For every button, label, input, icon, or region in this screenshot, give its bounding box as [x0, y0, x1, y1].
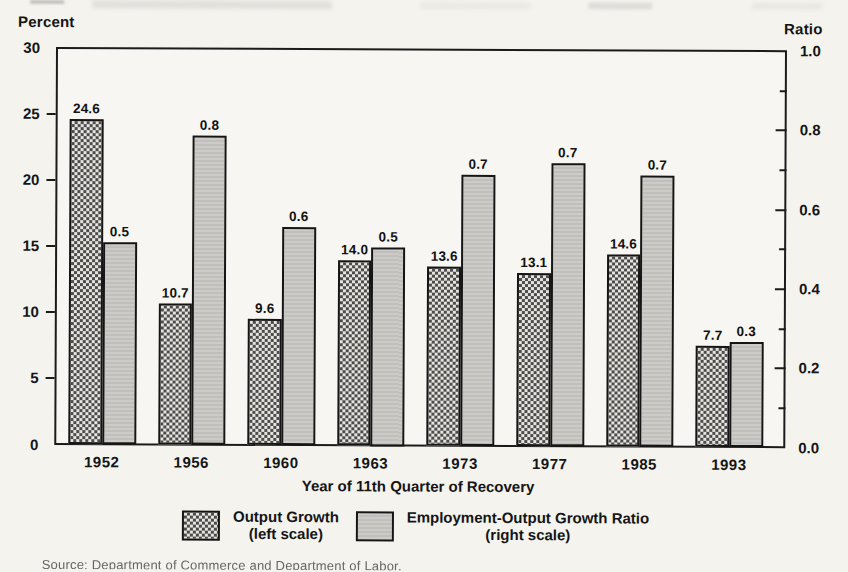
- left-axis-tick-label: 30: [8, 40, 40, 56]
- left-axis-tick-label: 5: [7, 370, 39, 386]
- output-growth-bar: [516, 273, 550, 446]
- right-axis-tick-label: 0.2: [799, 360, 839, 376]
- scan-artifact: [420, 3, 530, 9]
- employment-ratio-value-label: 0.7: [544, 145, 592, 160]
- employment-ratio-bar: [550, 163, 585, 447]
- x-category-label: 1993: [694, 456, 764, 473]
- left-axis-tick: [46, 245, 55, 247]
- left-axis-tick-label: 10: [7, 304, 39, 320]
- output-growth-bar: [606, 254, 640, 447]
- output-growth-bar: [68, 119, 103, 444]
- right-axis-tick-label: 1.0: [800, 43, 840, 59]
- left-axis-title: Percent: [18, 13, 75, 30]
- employment-ratio-bar: [729, 342, 763, 447]
- scan-artifact: [92, 0, 332, 9]
- employment-ratio-value-label: 0.7: [454, 157, 502, 172]
- legend: Output Growth (left scale) Employment-Ou…: [0, 0, 848, 3]
- right-axis-title: Ratio: [784, 20, 823, 37]
- right-axis-tick: [776, 129, 787, 131]
- legend-label-employment-ratio: Employment-Output Growth Ratio (right sc…: [400, 509, 656, 544]
- left-axis-tick-label: 15: [7, 238, 39, 254]
- x-category-label: 1952: [67, 453, 137, 470]
- right-axis-tick-label: 0.4: [799, 281, 839, 297]
- right-axis-tick: [775, 367, 786, 369]
- right-axis-tick-label: 0.8: [800, 123, 840, 139]
- legend-swatch-employment-ratio: [356, 511, 394, 541]
- employment-ratio-bar: [102, 242, 137, 444]
- x-category-label: 1956: [156, 453, 226, 470]
- employment-ratio-bar: [639, 175, 674, 447]
- employment-ratio-bar: [371, 248, 406, 446]
- legend-swatch-output-growth: [182, 511, 220, 541]
- legend-line1: Employment-Output Growth Ratio: [407, 509, 650, 527]
- right-axis-tick-label: 0.0: [798, 440, 838, 456]
- scan-artifact: [30, 0, 64, 4]
- right-axis-tick: [779, 248, 786, 250]
- x-category-label: 1963: [335, 454, 405, 471]
- employment-ratio-bar: [281, 227, 316, 445]
- x-category-label: 1985: [604, 455, 674, 472]
- output-growth-bar: [247, 318, 281, 445]
- right-axis-tick: [778, 407, 785, 409]
- right-axis-tick: [775, 288, 786, 290]
- output-growth-value-label: 24.6: [62, 101, 110, 116]
- x-category-label: 1977: [515, 455, 585, 472]
- x-axis-title: Year of 11th Quarter of Recovery: [288, 477, 548, 495]
- bar-chart-figure: Percent Ratio 3025201510501.00.80.60.40.…: [0, 0, 848, 572]
- employment-ratio-value-label: 0.3: [722, 324, 770, 339]
- employment-ratio-value-label: 0.5: [364, 230, 412, 245]
- left-axis-tick: [46, 311, 55, 313]
- scan-artifact: [752, 3, 822, 9]
- x-category-label: 1973: [425, 455, 495, 472]
- output-growth-bar: [158, 304, 192, 446]
- employment-ratio-value-label: 0.7: [633, 157, 681, 172]
- employment-ratio-value-label: 0.8: [185, 118, 233, 133]
- legend-line2: (right scale): [485, 526, 570, 543]
- legend-line2: (left scale): [249, 525, 323, 542]
- right-axis-tick: [780, 90, 787, 92]
- right-axis-tick: [779, 328, 786, 330]
- employment-ratio-value-label: 0.5: [95, 224, 143, 239]
- right-axis-tick: [775, 209, 786, 211]
- employment-ratio-value-label: 0.6: [275, 209, 323, 224]
- left-axis-tick-label: 20: [7, 172, 39, 188]
- legend-label-output-growth: Output Growth (left scale): [226, 508, 346, 543]
- legend-line1: Output Growth: [233, 508, 339, 525]
- left-axis-tick-label: 25: [8, 106, 40, 122]
- right-axis-tick-label: 0.6: [799, 202, 839, 218]
- employment-ratio-bar: [460, 175, 495, 447]
- output-growth-bar: [695, 346, 729, 448]
- source-line: Source: Department of Commerce and Depar…: [42, 557, 562, 571]
- left-axis-tick: [46, 377, 55, 379]
- output-growth-bar: [427, 266, 461, 446]
- x-category-label: 1960: [246, 454, 316, 471]
- scan-artifact: [588, 2, 652, 9]
- left-axis-tick: [47, 113, 56, 115]
- right-axis-tick: [779, 169, 786, 171]
- left-axis-tick: [46, 179, 55, 181]
- output-growth-bar: [337, 261, 371, 446]
- employment-ratio-bar: [191, 136, 226, 445]
- left-axis-tick-label: 0: [6, 436, 38, 452]
- chart-layer: 3025201510501.00.80.60.40.20.024.60.5195…: [0, 0, 848, 3]
